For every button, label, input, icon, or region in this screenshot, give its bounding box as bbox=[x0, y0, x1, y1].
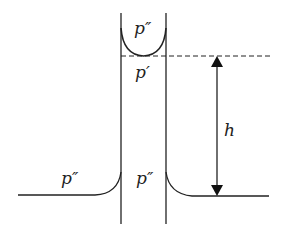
arrow-down-head bbox=[211, 185, 223, 196]
capillary-diagram: p″ p′ h p″ p″ bbox=[0, 0, 285, 235]
label-p-prime: p′ bbox=[135, 62, 150, 82]
arrow-up-head bbox=[211, 56, 223, 67]
label-h: h bbox=[224, 120, 235, 140]
label-p-double-prime-center: p″ bbox=[136, 168, 154, 188]
label-p-double-prime-top: p″ bbox=[134, 18, 152, 38]
label-p-double-prime-left: p″ bbox=[61, 168, 79, 188]
